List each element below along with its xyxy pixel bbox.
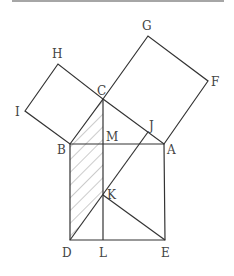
hatched-region bbox=[70, 99, 103, 240]
label-A: A bbox=[166, 143, 176, 157]
geometry-figure: G H F C I J M B A K D L E bbox=[0, 0, 234, 276]
label-B: B bbox=[57, 143, 66, 157]
label-I: I bbox=[15, 105, 20, 119]
label-H: H bbox=[52, 47, 62, 61]
label-M: M bbox=[106, 130, 118, 144]
label-G: G bbox=[142, 19, 152, 33]
label-C: C bbox=[97, 84, 106, 98]
label-E: E bbox=[161, 246, 170, 260]
label-F: F bbox=[211, 75, 219, 89]
square-CAFG bbox=[103, 36, 208, 144]
label-K: K bbox=[107, 188, 117, 202]
label-L: L bbox=[99, 246, 107, 260]
label-D: D bbox=[62, 246, 72, 260]
label-J: J bbox=[147, 119, 154, 133]
